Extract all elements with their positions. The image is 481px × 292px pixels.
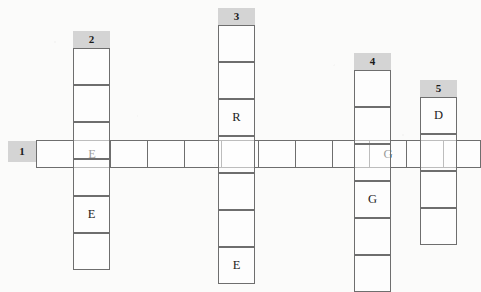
crossword-cell-2-6[interactable] — [73, 233, 110, 270]
clue-number-tab-4: 4 — [354, 53, 391, 70]
crossword-cell-5-1[interactable]: D — [420, 97, 457, 134]
crossword-cell-3-2[interactable] — [218, 62, 255, 99]
crossword-cell-2-5[interactable]: E — [73, 196, 110, 233]
crossword-cell-2-4[interactable] — [73, 159, 110, 196]
crossword-cell-3-5[interactable] — [218, 173, 255, 210]
clue-number-tab-3: 3 — [218, 8, 255, 25]
crossword-cell-1-4[interactable] — [147, 140, 185, 168]
crossword-cell-1-5[interactable] — [184, 140, 222, 168]
crossword-cell-2-2[interactable] — [73, 85, 110, 122]
crossword-cell-2-3[interactable] — [73, 122, 110, 159]
crossword-cell-3-7[interactable]: E — [218, 247, 255, 284]
crossword-cell-3-3[interactable]: R — [218, 99, 255, 136]
crossword-cell-5-2[interactable] — [420, 134, 457, 171]
crossword-cell-4-6[interactable] — [354, 255, 391, 292]
crossword-cell-3-6[interactable] — [218, 210, 255, 247]
clue-number-tab-2: 2 — [73, 31, 110, 48]
crossword-cell-3-1[interactable] — [218, 25, 255, 62]
clue-number-tab-5: 5 — [420, 80, 457, 97]
crossword-cell-4-1[interactable] — [354, 70, 391, 107]
crossword-cell-5-4[interactable] — [420, 208, 457, 245]
crossword-cell-3-4[interactable] — [218, 136, 255, 173]
crossword-cell-1-7[interactable] — [258, 140, 296, 168]
clue-number-tab-1: 1 — [8, 141, 36, 162]
crossword-cell-4-2[interactable] — [354, 107, 391, 144]
crossword-cell-1-1[interactable] — [36, 140, 74, 168]
crossword-cell-2-1[interactable] — [73, 48, 110, 85]
crossword-cell-4-3[interactable] — [354, 144, 391, 181]
crossword-cell-4-5[interactable] — [354, 218, 391, 255]
crossword-cell-5-3[interactable] — [420, 171, 457, 208]
crossword-cell-4-4[interactable]: G — [354, 181, 391, 218]
crossword-cell-1-8[interactable] — [295, 140, 333, 168]
crossword-cell-1-3[interactable] — [110, 140, 148, 168]
